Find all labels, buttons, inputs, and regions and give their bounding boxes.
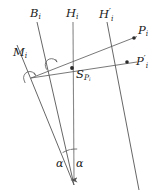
label-B-i-sub: i	[38, 12, 40, 21]
alpha-arc-right	[70, 149, 77, 150]
label-M-i-base: M	[13, 45, 25, 59]
label-P-i: Pi	[138, 25, 148, 38]
label-H-i-sub: i	[76, 12, 78, 21]
label-M-i: Mi	[13, 47, 27, 60]
label-H-i: Hi	[66, 8, 78, 21]
label-alpha-right: α	[76, 158, 83, 169]
label-S-Pi-base: S	[76, 67, 84, 81]
right-angle-tick-m	[24, 80, 25, 83]
geometry-figure: Bi Hi H′i Mi Pi P′i SPi α α	[0, 0, 157, 195]
point-p-i-prime	[125, 60, 129, 64]
line-H-i-prime	[107, 22, 139, 190]
label-S-Pi-sub-i: i	[89, 77, 91, 83]
label-S-Pi: SPi	[76, 69, 91, 83]
label-H-i-prime-sub: i	[111, 14, 113, 23]
label-H-i-prime: H′i	[99, 8, 113, 22]
label-P-i-prime: P′i	[136, 55, 148, 69]
label-M-i-sub: i	[25, 51, 27, 60]
label-P-i-sub: i	[146, 29, 148, 38]
line-H-i	[73, 22, 74, 180]
label-P-i-base: P	[138, 23, 146, 37]
label-alpha-left: α	[56, 158, 63, 169]
point-p-i	[132, 36, 136, 40]
label-S-Pi-sub: Pi	[84, 73, 91, 82]
point-s-pi	[70, 66, 74, 70]
label-H-i-base: H	[66, 6, 76, 20]
label-B-i: Bi	[30, 8, 41, 21]
label-H-i-prime-base: H	[99, 7, 109, 21]
label-P-i-prime-sub: i	[146, 61, 148, 70]
right-angle-tick-b	[46, 67, 47, 70]
label-P-i-prime-base: P	[136, 54, 144, 68]
